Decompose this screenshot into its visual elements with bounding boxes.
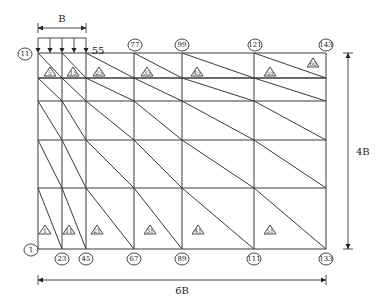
node-number: 89 — [178, 255, 187, 263]
mesh-diagonal — [86, 78, 134, 101]
mesh-diagonal — [86, 101, 134, 140]
mesh-diagonal — [62, 101, 86, 140]
node-number: 121 — [248, 41, 261, 49]
node-number: 111 — [247, 255, 260, 263]
node-number: 77 — [131, 41, 140, 49]
node-number: 67 — [130, 255, 139, 263]
mesh-diagonal — [86, 53, 134, 78]
dimension-label-B: B — [58, 13, 65, 24]
mesh-diagonal — [254, 140, 326, 188]
mesh-diagonal — [62, 78, 86, 101]
mesh-diagonal — [38, 140, 62, 188]
node-number: 133 — [319, 255, 332, 263]
mesh-diagonal — [134, 140, 182, 188]
right-arrow-icon — [81, 26, 86, 31]
element-number: 60 — [309, 60, 317, 67]
right-arrow-icon — [321, 278, 326, 283]
down-arrow-icon — [72, 48, 77, 53]
node-number: 11 — [21, 50, 30, 58]
element-number: 31 — [146, 227, 154, 234]
element-number: 51 — [266, 227, 274, 234]
element-number: 55 — [266, 69, 274, 76]
down-arrow-icon — [60, 48, 65, 53]
distributed-load — [36, 38, 89, 53]
down-arrow-icon — [84, 48, 89, 53]
node-number: 99 — [178, 41, 187, 49]
element-number: 5 — [48, 69, 52, 76]
mesh-diagonal — [134, 188, 182, 249]
element-number: 1 — [43, 227, 47, 234]
node-number: 1 — [29, 246, 33, 254]
mesh-grid — [38, 53, 326, 249]
down-arrow-icon — [48, 48, 53, 53]
node-number: 55 — [92, 45, 105, 56]
element-number: 41 — [194, 227, 202, 234]
mesh-diagonal — [38, 101, 62, 140]
left-arrow-icon — [38, 278, 43, 283]
element-number: 25 — [95, 69, 103, 76]
mesh-diagonal — [254, 188, 326, 249]
mesh-diagonal — [86, 188, 134, 249]
mesh-diagonal — [182, 140, 254, 188]
node-number: 23 — [58, 255, 67, 263]
dimension-label-6B: 6B — [175, 285, 189, 296]
mesh-diagonal — [86, 140, 134, 188]
mesh-diagonal — [134, 78, 182, 101]
element-number: 45 — [193, 69, 201, 76]
fem-mesh-diagram: B6B4B 515253545556011121314151 115577991… — [0, 0, 382, 305]
node-number: 45 — [82, 255, 91, 263]
left-arrow-icon — [38, 26, 43, 31]
mesh-diagonal — [62, 140, 86, 188]
mesh-diagonal — [38, 78, 62, 101]
mesh-diagonal — [254, 101, 326, 140]
mesh-diagonal — [134, 53, 182, 78]
mesh-diagonal — [62, 188, 86, 249]
mesh-diagonal — [182, 78, 254, 101]
mesh-diagonal — [182, 188, 254, 249]
element-number: 35 — [143, 69, 151, 76]
element-number: 15 — [69, 69, 77, 76]
element-number: 21 — [93, 227, 101, 234]
mesh-diagonal — [38, 188, 62, 249]
element-number: 11 — [65, 227, 73, 234]
down-arrow-icon — [346, 244, 351, 249]
mesh-diagonal — [134, 101, 182, 140]
dimension-label-4B: 4B — [356, 146, 370, 157]
mesh-diagonal — [254, 78, 326, 101]
up-arrow-icon — [346, 53, 351, 58]
down-arrow-icon — [36, 48, 41, 53]
node-number: 143 — [319, 41, 332, 49]
mesh-diagonal — [182, 101, 254, 140]
